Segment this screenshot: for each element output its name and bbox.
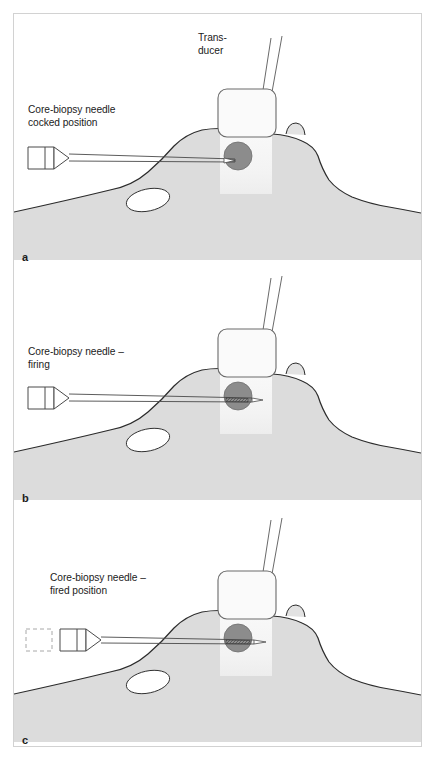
needle-hub [60, 629, 86, 651]
needle-hub-ghost [26, 629, 52, 651]
needle-sample-notch [226, 398, 248, 402]
nipple-icon [286, 123, 305, 135]
needle-hub [28, 147, 54, 169]
needle-hub-taper [86, 629, 101, 651]
panel-c-illustration [14, 496, 421, 742]
lesion-icon [224, 142, 252, 170]
needle-sample-notch [226, 640, 250, 644]
core-biopsy-figure: Core-biopsy needle cocked position Trans… [0, 0, 435, 762]
lesion-icon [224, 624, 252, 652]
panel-b-caption: Core-biopsy needle – firing [28, 346, 124, 371]
panel-c-letter: c [22, 734, 28, 746]
panel-a-caption: Core-biopsy needle cocked position [28, 104, 115, 129]
transducer-label: Trans- ducer [198, 32, 227, 57]
lesion-icon [224, 382, 252, 410]
panel-c: Core-biopsy needle – fired position c [14, 496, 421, 742]
needle-hub-taper [54, 387, 69, 409]
needle-hub-taper [54, 147, 69, 169]
transducer-cable-icon [263, 278, 271, 330]
transducer-icon [218, 571, 276, 619]
panel-b-illustration [14, 254, 421, 500]
needle-hub [28, 387, 54, 409]
transducer-icon [218, 89, 276, 137]
transducer-icon [218, 329, 276, 377]
panel-b: Core-biopsy needle – firing b [14, 254, 421, 500]
transducer-cable-icon [263, 38, 271, 90]
panel-a: Core-biopsy needle cocked position Trans… [14, 14, 421, 260]
nipple-icon [286, 605, 305, 617]
nipple-icon [286, 363, 305, 375]
panel-c-caption: Core-biopsy needle – fired position [50, 572, 146, 597]
transducer-cable-icon [263, 520, 271, 572]
